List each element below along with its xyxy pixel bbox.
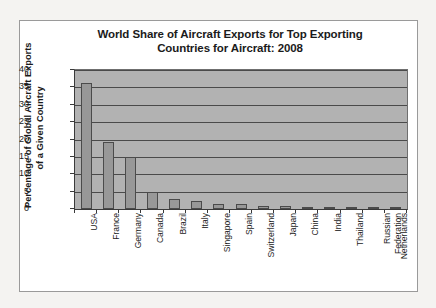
bar <box>191 201 202 209</box>
chart-title: World Share of Aircraft Exports for Top … <box>56 27 404 55</box>
bar <box>125 157 136 209</box>
gridline <box>75 105 407 106</box>
y-tick-label: 15 <box>7 151 29 160</box>
x-tick-mark <box>74 209 75 213</box>
x-category-label: Japan <box>288 213 300 308</box>
x-label-line: Russian <box>382 213 393 308</box>
y-tick-label: 40 <box>7 65 29 74</box>
gridline <box>75 87 407 88</box>
y-tick-label: 35 <box>7 82 29 91</box>
x-category-label: Singapore <box>222 213 234 308</box>
y-tick-label: 30 <box>7 99 29 108</box>
x-category-label: France <box>111 213 123 308</box>
x-category-label: India <box>333 213 345 308</box>
x-category-label: China <box>310 213 322 308</box>
x-category-label: Thailand <box>355 213 367 308</box>
x-category-label: Canada <box>155 213 167 308</box>
bar <box>213 204 224 209</box>
bar <box>103 142 114 209</box>
gridline <box>75 70 407 71</box>
bar <box>81 83 92 209</box>
x-category-label: Italy <box>200 213 212 308</box>
x-category-label: Netherlands <box>399 213 411 308</box>
chart-title-line-2: Countries for Aircraft: 2008 <box>56 41 404 55</box>
chart-screenshot: World Share of Aircraft Exports for Top … <box>0 0 436 308</box>
gridline <box>75 140 407 141</box>
bar <box>147 192 158 209</box>
y-tick-label: 25 <box>7 117 29 126</box>
chart-panel: World Share of Aircraft Exports for Top … <box>19 20 418 292</box>
x-category-label: USA <box>89 213 101 308</box>
bar <box>236 204 247 209</box>
x-category-label: Brazil <box>178 213 190 308</box>
x-category-label: Germany <box>133 213 145 308</box>
bar <box>324 207 335 209</box>
bar <box>169 199 180 209</box>
gridline <box>75 122 407 123</box>
y-axis-title-line-2: of a Given Country <box>35 48 47 208</box>
chart-title-line-1: World Share of Aircraft Exports for Top … <box>56 27 404 41</box>
x-category-label: Spain <box>244 213 256 308</box>
y-tick-label: 0 <box>7 204 29 213</box>
y-tick-label: 20 <box>7 134 29 143</box>
y-tick-label: 5 <box>7 186 29 195</box>
x-category-label: RussianFederation <box>382 213 394 308</box>
bar <box>280 206 291 209</box>
plot-area <box>74 69 408 210</box>
bar <box>390 207 401 209</box>
y-tick-label: 10 <box>7 169 29 178</box>
bar <box>346 207 357 209</box>
x-category-label: Switzerland <box>266 213 278 308</box>
bar <box>258 206 269 209</box>
bar <box>368 207 379 209</box>
bar <box>302 207 313 209</box>
